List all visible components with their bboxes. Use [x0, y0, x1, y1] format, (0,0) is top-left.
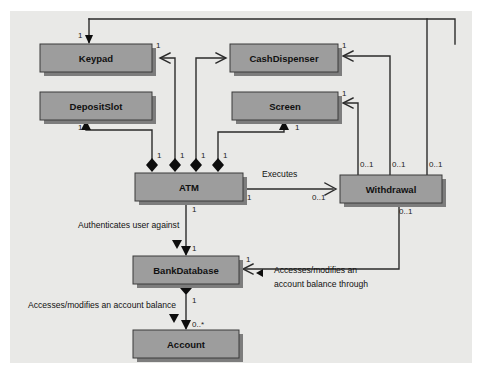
multiplicity-account-top: 0..* — [192, 320, 204, 329]
multiplicity-withdrawal-top-3: 0..1 — [429, 160, 443, 169]
uml-class-diagram-canvas: Keypad CashDispenser DepositSlot Screen — [0, 0, 481, 375]
class-box-cashdispenser[interactable]: CashDispenser — [230, 44, 342, 76]
multiplicity-keypad-top: 1 — [78, 31, 83, 40]
multiplicity-bankdatabase-right: 1 — [246, 255, 251, 264]
multiplicity-screen-bottom: 1 — [295, 123, 300, 132]
multiplicity-withdrawal-top-1: 0..1 — [360, 160, 374, 169]
class-box-bankdatabase[interactable]: BankDatabase — [133, 256, 243, 288]
multiplicity-atm-diamond-1: 1 — [157, 151, 162, 160]
multiplicity-atm-diamond-3: 1 — [201, 151, 206, 160]
multiplicity-atm-right: 1 — [247, 193, 252, 202]
multiplicity-atm-bottom: 1 — [192, 205, 197, 214]
class-box-depositslot[interactable]: DepositSlot — [40, 92, 156, 124]
multiplicity-withdrawal-left: 0..1 — [312, 193, 326, 202]
multiplicity-cashdispenser-right: 1 — [342, 41, 347, 50]
class-name-bankdatabase: BankDatabase — [153, 265, 218, 276]
multiplicity-withdrawal-bottom: 0..1 — [399, 207, 413, 216]
multiplicity-keypad-right: 1 — [156, 41, 161, 50]
multiplicity-depositslot-bottom: 1 — [78, 123, 83, 132]
multiplicity-screen-right: 1 — [342, 89, 347, 98]
association-label-accesses-through-line2: account balance through — [274, 279, 368, 289]
uml-diagram-root: Keypad CashDispenser DepositSlot Screen — [0, 0, 481, 375]
class-box-atm[interactable]: ATM — [135, 173, 247, 205]
association-label-authenticates: Authenticates user against — [78, 220, 180, 230]
class-box-withdrawal[interactable]: Withdrawal — [340, 175, 446, 207]
multiplicity-atm-diamond-2: 1 — [180, 151, 185, 160]
class-name-keypad: Keypad — [79, 53, 114, 64]
class-box-screen[interactable]: Screen — [232, 92, 342, 124]
class-name-screen: Screen — [269, 101, 301, 112]
class-name-atm: ATM — [179, 182, 199, 193]
class-box-account[interactable]: Account — [133, 330, 243, 362]
association-label-accesses-balance: Accesses/modifies an account balance — [28, 300, 176, 310]
multiplicity-atm-diamond-4: 1 — [223, 151, 228, 160]
multiplicity-withdrawal-top-2: 0..1 — [392, 160, 406, 169]
class-name-cashdispenser: CashDispenser — [249, 53, 318, 64]
class-name-account: Account — [167, 339, 206, 350]
class-name-depositslot: DepositSlot — [70, 101, 124, 112]
association-label-accesses-through-line1: Accesses/modifies an — [274, 265, 357, 275]
multiplicity-bankdatabase-top: 1 — [192, 244, 197, 253]
class-box-keypad[interactable]: Keypad — [40, 44, 156, 76]
multiplicity-bankdatabase-bottom: 1 — [192, 296, 197, 305]
association-label-executes: Executes — [262, 169, 297, 179]
class-name-withdrawal: Withdrawal — [366, 184, 417, 195]
